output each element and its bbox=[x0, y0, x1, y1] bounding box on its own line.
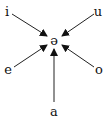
vowel-e-label: e bbox=[4, 62, 12, 77]
arrow-o-to-schwa bbox=[62, 45, 94, 67]
vowel-i-label: i bbox=[5, 4, 9, 19]
vowel-o-label: o bbox=[95, 62, 103, 77]
arrow-u-to-schwa bbox=[62, 14, 94, 36]
vowel-a-label: a bbox=[50, 104, 58, 119]
vowel-u-label: u bbox=[94, 4, 102, 19]
arrow-e-to-schwa bbox=[14, 45, 47, 67]
vowel-reduction-diagram: ə i u e o a bbox=[0, 0, 110, 121]
arrow-i-to-schwa bbox=[12, 14, 47, 36]
schwa-label: ə bbox=[50, 33, 58, 48]
